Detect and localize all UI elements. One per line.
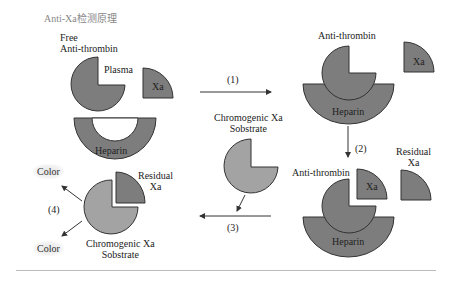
label-line: Sobstrate — [214, 123, 283, 134]
residual-xa-label: Residual Xa — [396, 146, 431, 168]
residual-xa-label: Residual Xa — [138, 170, 173, 192]
heparin-label: Heparin — [332, 106, 364, 117]
substrate-label: Chromogenic Xa Sobstrate — [86, 238, 155, 260]
anti-xa-diagram: Anti-Xa检测原理 — [0, 0, 468, 284]
antithrombin-shape — [322, 46, 376, 100]
label-line: Residual — [396, 146, 431, 157]
plasma-label: Plasma — [104, 64, 133, 75]
xa-label: Xa — [152, 81, 164, 92]
antithrombin-label: Anti-thrombin — [318, 30, 376, 41]
step-3-label: (3) — [227, 222, 239, 233]
label-line: Free — [60, 32, 118, 43]
xa-label: Xa — [366, 181, 378, 192]
label-line: Residual — [138, 170, 173, 181]
divider — [16, 270, 436, 271]
color-burst-top: Color — [33, 164, 64, 179]
step-1-label: (1) — [227, 74, 239, 85]
label-line: Xa — [396, 157, 431, 168]
free-antithrombin-label: Free Anti-thrombin — [60, 32, 118, 54]
label-line: Anti-thrombin — [60, 43, 118, 54]
label-line: Chromogenic Xa — [214, 112, 283, 123]
chromogenic-substrate-shape — [224, 139, 278, 193]
label-line: Sobstrate — [86, 249, 155, 260]
heparin-label: Heparin — [95, 145, 127, 156]
color-burst-bottom: Color — [33, 241, 64, 256]
antithrombin-label: Anti-thrombin — [292, 167, 350, 178]
step-2-label: (2) — [355, 143, 367, 154]
label-line: Xa — [138, 181, 173, 192]
heparin-label: Heparin — [332, 236, 364, 247]
label-line: Chromogenic Xa — [86, 238, 155, 249]
substrate-label: Chromogenic Xa Sobstrate — [214, 112, 283, 134]
xa-label: Xa — [413, 56, 425, 67]
step-4-label: (4) — [48, 204, 60, 215]
